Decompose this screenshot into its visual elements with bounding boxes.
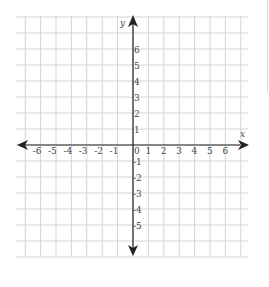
origin-label: 0 <box>134 146 140 156</box>
y-tick-label: 4 <box>134 77 140 87</box>
y-tick-label: 2 <box>134 109 140 119</box>
x-tick-label: -3 <box>79 146 88 156</box>
y-tick-label: 5 <box>134 61 140 71</box>
x-tick-label: 2 <box>161 146 167 156</box>
x-tick-label: 6 <box>222 146 228 156</box>
y-axis-label: y <box>119 18 126 28</box>
x-tick-label: 3 <box>176 146 182 156</box>
y-tick-label: 1 <box>134 125 140 135</box>
x-tick-label: -6 <box>33 146 42 156</box>
y-tick-labels: 654321-1-2-3-4-5 <box>133 45 142 231</box>
x-axis-label: x <box>240 129 245 139</box>
x-tick-label: -5 <box>48 146 57 156</box>
y-tick-label: -4 <box>133 205 142 215</box>
y-tick-label: -2 <box>133 173 142 183</box>
y-tick-label: -1 <box>133 157 142 167</box>
x-tick-label: -2 <box>94 146 103 156</box>
x-tick-label: -4 <box>63 146 72 156</box>
coordinate-grid-svg: -6-5-4-3-2-1123456 654321-1-2-3-4-5 x y … <box>0 0 269 287</box>
y-tick-label: -3 <box>133 189 142 199</box>
y-tick-label: -5 <box>133 221 142 231</box>
page-edge-divider <box>267 0 268 92</box>
coordinate-plane: -6-5-4-3-2-1123456 654321-1-2-3-4-5 x y … <box>0 0 269 287</box>
x-tick-label: 1 <box>145 146 151 156</box>
x-tick-label: 5 <box>207 146 213 156</box>
y-tick-label: 6 <box>134 45 140 55</box>
x-tick-label: -1 <box>110 146 119 156</box>
axes <box>17 15 249 256</box>
x-tick-label: 4 <box>192 146 198 156</box>
x-tick-labels: -6-5-4-3-2-1123456 <box>33 146 229 156</box>
y-tick-label: 3 <box>134 93 140 103</box>
grid-lines <box>16 16 248 257</box>
